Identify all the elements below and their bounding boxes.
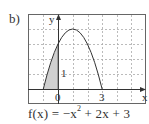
- shaded-area: [43, 45, 58, 89]
- formula-prefix: f(x) = −x: [28, 106, 77, 121]
- formula-suffix: + 2x + 3: [81, 106, 130, 121]
- tick-x-3: 3: [99, 91, 105, 103]
- function-formula: f(x) = −x2 + 2x + 3: [28, 106, 130, 122]
- tick-origin: 0: [55, 91, 61, 103]
- y-axis-label: y: [49, 13, 55, 25]
- x-axis-label: x: [142, 91, 148, 103]
- tick-y-1: 1: [61, 67, 67, 79]
- graph-frame: [29, 15, 146, 104]
